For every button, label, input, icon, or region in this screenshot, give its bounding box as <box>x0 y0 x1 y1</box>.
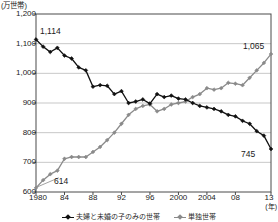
data-point-marker <box>233 82 237 86</box>
y-axis-tick: 700 <box>2 158 36 166</box>
y-axis-tick: 900 <box>2 99 36 107</box>
data-label: 1,065 <box>243 42 264 51</box>
x-axis-unit-label: (年) <box>265 203 277 211</box>
data-point-marker <box>212 107 216 111</box>
x-axis-tick: 13 <box>265 193 274 202</box>
data-point-marker <box>177 97 181 101</box>
legend-marker-black-icon <box>62 217 74 218</box>
legend-marker-gray-icon <box>174 217 186 218</box>
y-axis-tick: 800 <box>2 129 36 137</box>
data-point-marker <box>84 68 88 72</box>
data-point-marker <box>169 94 173 98</box>
data-label: 614 <box>54 177 68 186</box>
data-label: 1,114 <box>40 27 61 36</box>
y-axis-tick: 1,100 <box>2 40 36 48</box>
data-point-marker <box>77 155 81 159</box>
data-point-marker <box>198 104 202 108</box>
y-axis-tick: 1,000 <box>2 69 36 77</box>
x-axis-tick: 92 <box>117 193 126 202</box>
legend-item-couple-with-children: 夫婦と未婚の子のみの世帯 <box>62 213 160 221</box>
x-axis-tick: 1980 <box>29 193 47 202</box>
y-axis-tick-labels: 1,2001,1001,000900800700600 <box>0 0 36 222</box>
legend-label: 単独世帯 <box>188 213 216 221</box>
x-axis-tick: 2004 <box>198 193 216 202</box>
y-axis-tick: 1,200 <box>2 10 36 18</box>
series-line <box>34 52 273 190</box>
x-axis-tick: 84 <box>60 193 69 202</box>
data-point-marker <box>177 101 181 105</box>
data-point-marker <box>212 88 216 92</box>
data-point-marker <box>162 95 166 99</box>
line-chart: (万世帯) 1,2001,1001,000900800700600 198084… <box>0 0 278 222</box>
x-axis-tick: 96 <box>145 193 154 202</box>
data-point-marker <box>205 106 209 110</box>
x-axis-tick: 2000 <box>170 193 188 202</box>
chart-legend: 夫婦と未婚の子のみの世帯 単独世帯 <box>0 212 278 222</box>
data-label: 745 <box>241 150 255 159</box>
series-line <box>34 38 273 151</box>
x-axis-tick: 88 <box>89 193 98 202</box>
x-axis-tick: 08 <box>231 193 240 202</box>
x-axis-tick-labels: 198084889296200020040813 <box>0 193 278 204</box>
data-point-marker <box>98 83 102 87</box>
data-point-marker <box>70 155 74 159</box>
legend-label: 夫婦と未婚の子のみの世帯 <box>76 213 160 221</box>
data-point-marker <box>141 104 145 108</box>
legend-item-single-household: 単独世帯 <box>174 213 216 221</box>
data-point-marker <box>91 85 95 89</box>
